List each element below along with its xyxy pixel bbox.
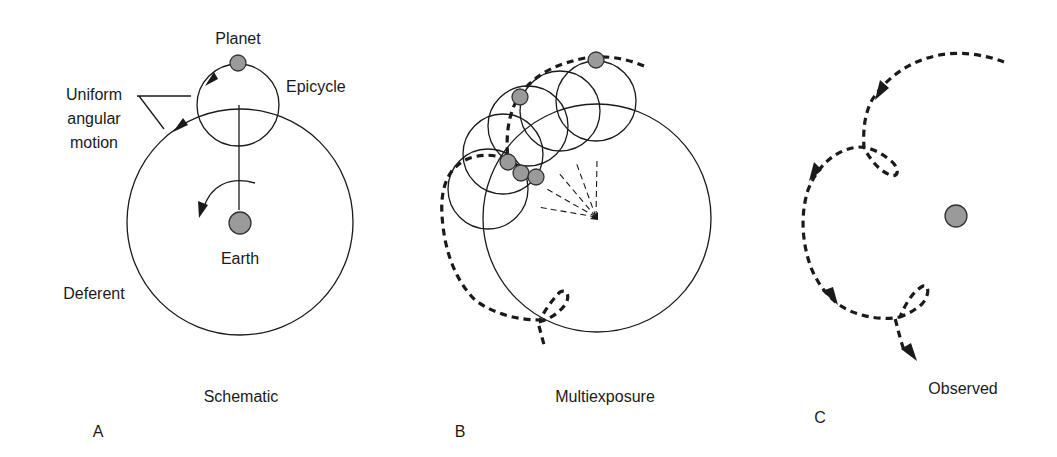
epicycle-circle bbox=[197, 64, 279, 146]
epicycle-label: Epicycle bbox=[286, 78, 346, 95]
planet-b-2 bbox=[512, 89, 528, 105]
panel-a-letter: A bbox=[93, 423, 104, 440]
observed-path bbox=[803, 53, 1004, 350]
rotation-arrow-icon bbox=[198, 201, 208, 218]
panel-b: Multiexposure B bbox=[442, 52, 711, 440]
panel-c-caption: Observed bbox=[928, 380, 997, 397]
panel-a: Planet Epicycle Uniform angular motion E… bbox=[63, 30, 353, 440]
planet-label: Planet bbox=[215, 30, 261, 47]
panel-b-caption: Multiexposure bbox=[555, 388, 655, 405]
uniform-label-line1: Uniform bbox=[66, 86, 122, 103]
panel-b-letter: B bbox=[455, 423, 466, 440]
uniform-label-line3: motion bbox=[70, 134, 118, 151]
earth-body-c bbox=[945, 205, 967, 227]
earth-label: Earth bbox=[221, 250, 259, 267]
planet-b-4 bbox=[513, 165, 529, 181]
trajectory-b bbox=[442, 57, 644, 348]
deferent-label: Deferent bbox=[63, 285, 125, 302]
planet-b-5 bbox=[528, 169, 544, 185]
panel-c: Observed C bbox=[803, 53, 1004, 426]
epicycle-figure: Planet Epicycle Uniform angular motion E… bbox=[0, 0, 1057, 457]
deferent-arrow-icon bbox=[173, 118, 188, 132]
earth-body bbox=[229, 212, 251, 234]
radial-rays bbox=[538, 160, 597, 217]
planet-b-1 bbox=[588, 52, 604, 68]
planet-body bbox=[230, 55, 246, 71]
planet-b-3 bbox=[500, 154, 516, 170]
panel-a-caption: Schematic bbox=[204, 388, 279, 405]
panel-c-letter: C bbox=[814, 409, 826, 426]
uniform-label-line2: angular bbox=[67, 110, 121, 127]
rotation-arc bbox=[203, 181, 255, 210]
